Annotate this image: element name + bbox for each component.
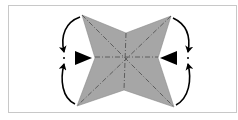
fold-arrow-top-right-icon [173,18,189,52]
paper-star-shape [77,15,174,107]
origami-diagram [0,0,238,120]
meet-point-left-icon [63,57,65,59]
meet-point-right-icon [187,57,189,59]
fold-arrow-bottom-left-icon [62,64,75,104]
push-arrow-left-icon [75,51,92,65]
push-arrow-right-icon [160,51,177,65]
fold-arrow-top-left-icon [63,17,80,52]
fold-arrow-bottom-right-icon [176,64,190,105]
